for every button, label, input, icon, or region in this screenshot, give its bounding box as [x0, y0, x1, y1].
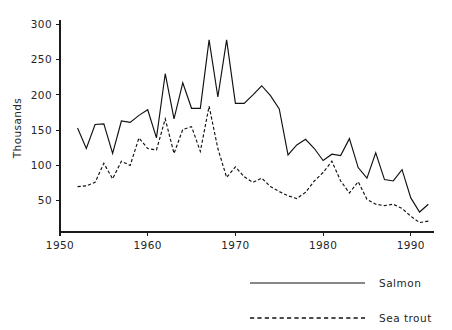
- x-axis-ticks: [60, 232, 411, 236]
- y-tick-label-200: 200: [31, 89, 52, 101]
- x-tick-label-1950: 1950: [46, 239, 74, 251]
- y-tick-label-250: 250: [31, 53, 52, 65]
- legend-label-salmon: Salmon: [379, 277, 421, 289]
- x-tick-label-1990: 1990: [397, 239, 425, 251]
- line-chart: 50100150200250300 19501960197019801990 T…: [0, 0, 452, 330]
- legend-label-sea-trout: Sea trout: [379, 312, 432, 324]
- series-line-salmon: [78, 40, 429, 212]
- y-tick-label-50: 50: [38, 194, 52, 206]
- y-tick-label-300: 300: [31, 18, 52, 30]
- y-axis-title: Thousands: [11, 98, 23, 159]
- y-axis-tick-labels: 50100150200250300: [31, 18, 52, 206]
- x-axis-tick-labels: 19501960197019801990: [46, 239, 425, 251]
- chart-figure: 50100150200250300 19501960197019801990 T…: [0, 0, 452, 330]
- y-tick-label-100: 100: [31, 159, 52, 171]
- y-tick-label-150: 150: [31, 124, 52, 136]
- series-line-sea-trout: [78, 106, 429, 222]
- x-tick-label-1980: 1980: [309, 239, 337, 251]
- x-tick-label-1970: 1970: [221, 239, 249, 251]
- y-axis-ticks: [56, 24, 60, 200]
- legend: Salmon Sea trout: [250, 277, 432, 324]
- x-tick-label-1960: 1960: [134, 239, 162, 251]
